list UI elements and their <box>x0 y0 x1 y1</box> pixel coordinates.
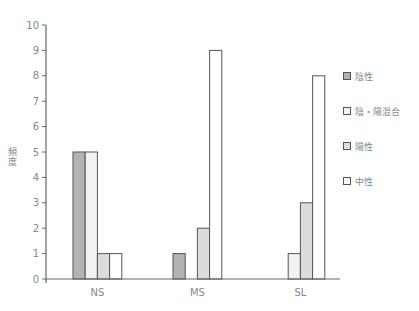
x-category-label: NS <box>90 287 104 298</box>
bar <box>210 50 222 279</box>
y-tick-label: 10 <box>26 20 39 31</box>
x-category-label: SL <box>294 287 306 298</box>
y-tick-label: 5 <box>33 147 39 158</box>
legend-swatch-icon <box>343 142 351 150</box>
legend-swatch-icon <box>343 72 351 80</box>
y-axis: 012345678910 <box>26 20 46 285</box>
y-tick-label: 8 <box>33 70 39 81</box>
bar <box>288 254 300 279</box>
legend-label: 陰性 <box>355 70 373 83</box>
legend-label: 陽性 <box>355 140 373 153</box>
bar <box>173 254 185 279</box>
legend-label: 中性 <box>355 175 373 188</box>
bar <box>110 254 122 279</box>
bar <box>313 76 325 279</box>
legend-item: 中性 <box>343 175 400 187</box>
legend-swatch-icon <box>343 177 351 185</box>
bar <box>97 254 109 279</box>
legend-item: 陰・陽混合 <box>343 105 400 117</box>
y-tick-label: 1 <box>33 248 39 259</box>
bar <box>85 152 97 279</box>
legend-item: 陽性 <box>343 140 400 152</box>
legend-item: 陰性 <box>343 70 400 82</box>
legend-label: 陰・陽混合 <box>355 105 400 118</box>
y-tick-label: 2 <box>33 223 39 234</box>
bar <box>197 228 209 279</box>
y-tick-label: 7 <box>33 96 39 107</box>
bar <box>300 203 312 279</box>
legend: 陰性 陰・陽混合 陽性 中性 <box>343 70 400 210</box>
legend-swatch-icon <box>343 107 351 115</box>
y-tick-label: 3 <box>33 197 39 208</box>
y-tick-label: 0 <box>33 274 39 285</box>
y-axis-label: 頻度 <box>7 147 17 167</box>
y-tick-label: 6 <box>33 121 39 132</box>
y-tick-label: 9 <box>33 45 39 56</box>
x-category-label: MS <box>190 287 205 298</box>
bars <box>73 50 325 279</box>
x-axis: NSMSSL <box>46 279 340 298</box>
y-tick-label: 4 <box>33 172 39 183</box>
bar <box>73 152 85 279</box>
